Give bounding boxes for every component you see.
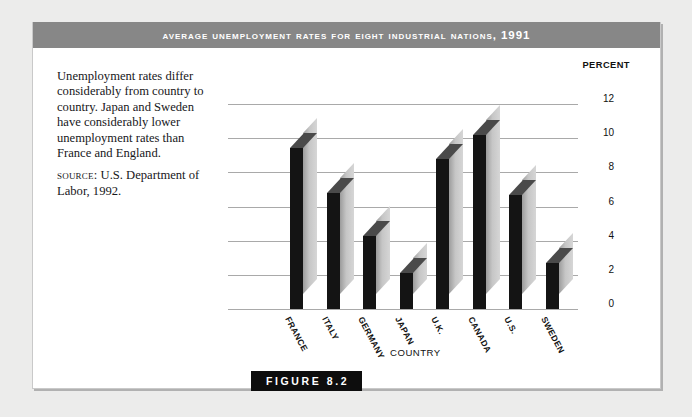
caption-source-label: SOURCE: [57,168,97,182]
bar-side-face [376,206,390,294]
bar-front-face [436,159,449,309]
caption-body: Unemployment rates differ considerably f… [57,69,204,160]
bar-baseline [290,297,573,309]
bar-front-face [473,135,486,309]
figure-number-badge: FIGURE 8.2 [251,371,362,391]
page-title: Average Unemployment Rates for Eight Ind… [163,29,531,41]
caption-source: SOURCE: U.S. Department of Labor, 1992. [57,168,217,199]
bar-front-face [509,195,522,309]
figure-panel: Average Unemployment Rates for Eight Ind… [32,22,661,389]
figure-caption: Unemployment rates differ considerably f… [57,69,217,199]
chart-plot-area: PERCENT 121086420 FRANCEITALYGERMANYJAPA… [228,60,628,330]
x-axis-title: COUNTRY [390,347,441,358]
bar-front-face [327,193,340,309]
chart-x-labels: FRANCEITALYGERMANYJAPANU.K.CANADAU.S.SWE… [228,60,628,140]
figure-page: Average Unemployment Rates for Eight Ind… [0,0,692,417]
bar-side-face [559,233,573,294]
figure-title-bar: Average Unemployment Rates for Eight Ind… [32,22,661,48]
bar-front-face [290,148,303,309]
